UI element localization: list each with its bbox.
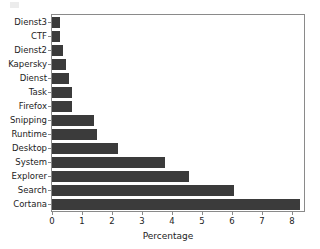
bar-fill: [52, 73, 69, 84]
y-axis-tick-mark: [48, 190, 51, 191]
y-axis-tick-label: Snipping: [10, 116, 47, 125]
x-axis-tick-label: 0: [49, 216, 54, 226]
y-axis-tick-mark: [48, 204, 51, 205]
bar: [52, 143, 118, 154]
bar: [52, 73, 69, 84]
x-axis-tick-mark: [262, 212, 263, 215]
x-axis-tick-mark: [292, 212, 293, 215]
bar-fill: [52, 129, 97, 140]
y-axis-tick-label: CTF: [31, 32, 47, 41]
y-axis-tick-labels: Dienst3CTFDienst2KaperskyDienstTaskFiref…: [0, 15, 47, 211]
bar: [52, 199, 300, 210]
x-axis-tick-label: 6: [229, 216, 234, 226]
bar-fill: [52, 101, 72, 112]
x-axis-tick-mark: [172, 212, 173, 215]
bar: [52, 31, 60, 42]
y-axis-tick-mark: [48, 50, 51, 51]
y-axis-tick-mark: [48, 106, 51, 107]
y-axis-tick-label: Runtime: [11, 130, 47, 139]
y-axis-tick-label: System: [15, 158, 47, 167]
y-axis-tick-mark: [48, 162, 51, 163]
bar-fill: [52, 171, 189, 182]
x-axis-title-text: Percentage: [143, 231, 194, 241]
x-axis-tick-mark: [112, 212, 113, 215]
scan-artifact: [10, 2, 19, 8]
bar: [52, 87, 72, 98]
bar-fill: [52, 59, 66, 70]
bar-chart-figure: Dienst3CTFDienst2KaperskyDienstTaskFiref…: [0, 0, 320, 249]
bar: [52, 45, 63, 56]
y-axis-tick-label: Explorer: [12, 172, 47, 181]
x-axis-tick-label: 5: [199, 216, 204, 226]
bar: [52, 101, 72, 112]
y-axis-tick-label: Task: [29, 88, 47, 97]
y-axis-tick-mark: [48, 120, 51, 121]
y-axis-tick-mark: [48, 36, 51, 37]
bar: [52, 171, 189, 182]
x-axis-title: Percentage: [0, 231, 320, 241]
y-axis-tick-label: Kapersky: [8, 60, 47, 69]
y-axis-tick-label: Search: [18, 186, 47, 195]
bar-fill: [52, 31, 60, 42]
y-axis-tick-label: Cortana: [13, 200, 47, 209]
y-axis-tick-label: Dienst: [20, 74, 47, 83]
y-axis-tick-mark: [48, 176, 51, 177]
bar: [52, 157, 165, 168]
y-axis-tick-mark: [48, 148, 51, 149]
y-axis-tick-mark: [48, 22, 51, 23]
x-axis-tick-label: 8: [289, 216, 294, 226]
y-axis-tick-mark: [48, 78, 51, 79]
bar-fill: [52, 143, 118, 154]
y-axis-tick-mark: [48, 92, 51, 93]
y-axis-tick-label: Dienst2: [14, 46, 47, 55]
x-axis-tick-label: 2: [109, 216, 114, 226]
bar-fill: [52, 87, 72, 98]
bar: [52, 185, 234, 196]
bar-fill: [52, 157, 165, 168]
x-axis-tick-label: 7: [259, 216, 264, 226]
x-axis-tick-mark: [232, 212, 233, 215]
bar: [52, 59, 66, 70]
x-axis-tick-label: 3: [139, 216, 144, 226]
y-axis-tick-mark: [48, 64, 51, 65]
bar: [52, 17, 60, 28]
y-axis-tick-label: Firefox: [19, 102, 47, 111]
bar-fill: [52, 185, 234, 196]
x-axis-tick-mark: [202, 212, 203, 215]
x-axis-tick-mark: [82, 212, 83, 215]
bar: [52, 129, 97, 140]
bar-fill: [52, 45, 63, 56]
y-axis-tick-label: Dienst3: [14, 18, 47, 27]
y-axis-tick-label: Desktop: [12, 144, 47, 153]
x-axis-tick-mark: [142, 212, 143, 215]
bar-fill: [52, 17, 60, 28]
x-axis-tick-mark: [52, 212, 53, 215]
bar: [52, 115, 94, 126]
bar-fill: [52, 115, 94, 126]
x-axis-tick-label: 1: [79, 216, 84, 226]
bar-fill: [52, 199, 300, 210]
bars-container: [52, 15, 304, 211]
x-axis-tick-label: 4: [169, 216, 174, 226]
y-axis-tick-mark: [48, 134, 51, 135]
